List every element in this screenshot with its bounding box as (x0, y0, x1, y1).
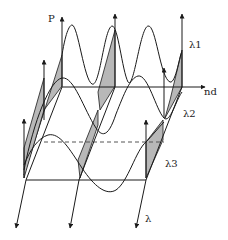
plane-lambda1 (62, 14, 205, 87)
lambda-arrow-middle (70, 180, 79, 228)
nd-axis-label: nd (204, 86, 217, 97)
label-lambda1: λ1 (189, 39, 202, 50)
label-lambda3: λ3 (165, 158, 178, 169)
label-lambda2: λ2 (183, 108, 196, 119)
shade-right-lower (146, 120, 163, 178)
shade-middle-lower (78, 110, 98, 178)
lambda-arrows (16, 180, 146, 228)
shade-middle (98, 30, 115, 110)
lambda-arrow-left (16, 180, 26, 228)
wave-diagram: P nd λ λ1 λ2 λ3 (0, 0, 228, 240)
p-axis-label: P (48, 13, 55, 24)
lambda-axis-label: λ (145, 213, 152, 224)
